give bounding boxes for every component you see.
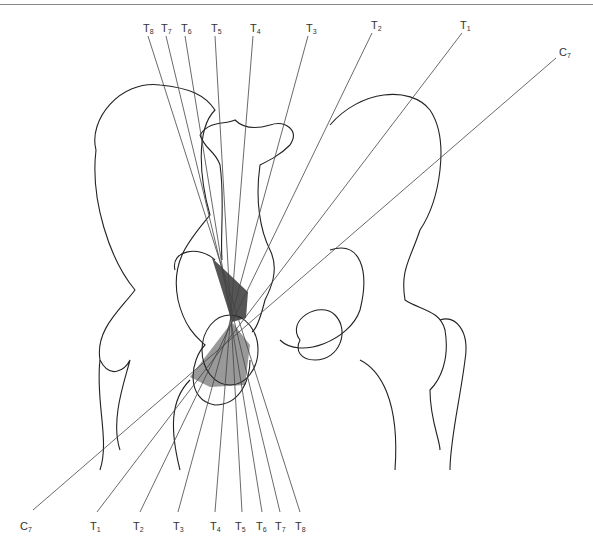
top-label-T1: T1 <box>460 19 471 32</box>
bottom-label-T5: T5 <box>235 520 246 533</box>
pelvis-diagram <box>0 0 593 549</box>
lower-shaded-fan <box>190 322 250 387</box>
projection-lines <box>33 33 556 512</box>
top-label-T2: T2 <box>371 19 382 32</box>
bottom-label-T3: T3 <box>173 520 184 533</box>
top-label-T4: T4 <box>250 22 261 35</box>
top-label-T3: T3 <box>306 22 317 35</box>
bottom-label-T8: T8 <box>295 520 306 533</box>
bottom-label-T4: T4 <box>210 520 221 533</box>
top-label-C7: C7 <box>559 46 571 59</box>
bottom-label-T6: T6 <box>256 520 267 533</box>
bottom-label-C7: C7 <box>20 520 32 533</box>
bottom-label-T2: T2 <box>133 520 144 533</box>
top-label-T7: T7 <box>161 22 172 35</box>
top-label-T6: T6 <box>181 22 192 35</box>
top-label-T8: T8 <box>143 22 154 35</box>
top-label-T5: T5 <box>211 22 222 35</box>
pelvis-outline <box>95 85 466 470</box>
bottom-label-T1: T1 <box>90 520 101 533</box>
bottom-label-T7: T7 <box>275 520 286 533</box>
